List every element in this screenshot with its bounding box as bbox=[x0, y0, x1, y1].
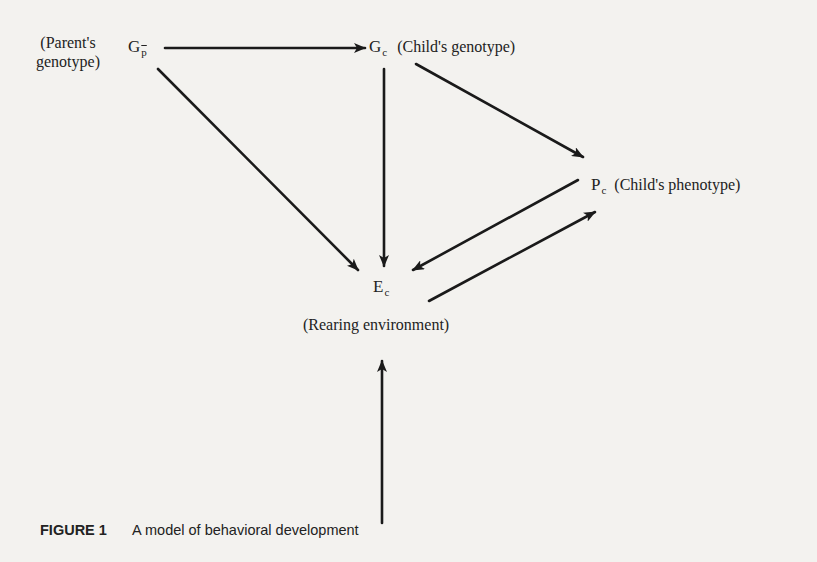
figure-caption-text: A model of behavioral development bbox=[132, 522, 359, 538]
node-gp-symbol: Gp bbox=[128, 37, 147, 58]
gp-symbol: G bbox=[128, 37, 140, 56]
gc-subscript: c bbox=[382, 46, 387, 58]
figure-number: FIGURE 1 bbox=[40, 522, 107, 538]
gp-label-line2: genotype) bbox=[36, 52, 100, 71]
ec-label: (Rearing environment) bbox=[303, 316, 449, 333]
ec-subscript: c bbox=[384, 286, 389, 298]
pc-label: (Child's phenotype) bbox=[614, 176, 740, 193]
edge-ec-to-pc bbox=[429, 212, 595, 301]
pc-symbol: P bbox=[591, 175, 600, 194]
node-gc: Gc (Child's genotype) bbox=[369, 37, 515, 58]
node-gp-description: (Parent's genotype) bbox=[36, 33, 100, 71]
edge-gp-to-ec bbox=[158, 69, 358, 270]
figure-caption: FIGURE 1 A model of behavioral developme… bbox=[40, 522, 359, 538]
node-ec-symbol: Ec bbox=[373, 277, 389, 298]
gp-subscript: p bbox=[141, 46, 147, 58]
edge-gc-to-pc bbox=[416, 64, 583, 157]
pc-subscript: c bbox=[601, 184, 606, 196]
gc-symbol: G bbox=[369, 37, 381, 56]
node-ec-description: (Rearing environment) bbox=[303, 315, 449, 334]
gc-label: (Child's genotype) bbox=[397, 38, 515, 55]
node-pc: Pc (Child's phenotype) bbox=[591, 175, 740, 196]
gp-label-line1: (Parent's bbox=[36, 33, 100, 52]
diagram-canvas bbox=[0, 0, 817, 562]
ec-symbol: E bbox=[373, 277, 383, 296]
edge-pc-to-ec bbox=[413, 180, 578, 270]
